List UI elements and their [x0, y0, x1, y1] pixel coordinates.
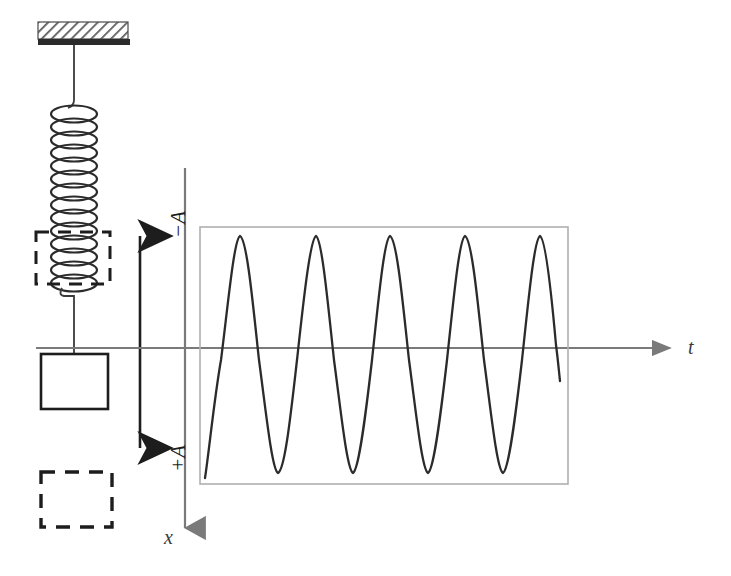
- amplitude-negative-label: −A: [166, 211, 191, 238]
- x-axis-label: x: [164, 526, 173, 549]
- helical-spring: [51, 106, 97, 292]
- physics-figure: −A +A t x: [0, 0, 731, 576]
- upper-connecting-rod: [68, 45, 74, 108]
- t-axis-label: t: [688, 336, 694, 359]
- plot-frame: [200, 227, 568, 484]
- ceiling-hatch-area: [38, 22, 128, 39]
- sine-wave-curve: [205, 236, 560, 478]
- mass-displacement-outline: [41, 472, 112, 527]
- figure-canvas: [0, 0, 731, 576]
- ceiling-solid-bar: [38, 39, 130, 45]
- amplitude-positive-label: +A: [166, 445, 191, 472]
- lower-connecting-rod: [60, 288, 74, 356]
- hatched-ceiling-support: [38, 22, 130, 45]
- mass-block: [41, 354, 108, 409]
